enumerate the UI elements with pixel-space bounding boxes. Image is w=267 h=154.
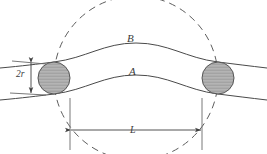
dimension-label-L: L bbox=[130, 125, 136, 135]
large-dashed-circle bbox=[54, 0, 218, 154]
left-roller-circle bbox=[38, 62, 70, 94]
curve-label-A: A bbox=[129, 66, 136, 77]
curve-label-B: B bbox=[127, 33, 134, 44]
right-roller-circle bbox=[202, 62, 234, 94]
leader-line-top bbox=[12, 61, 46, 64]
figure-canvas: B A L 2r bbox=[0, 0, 267, 154]
leader-line-bottom bbox=[10, 93, 46, 95]
dimension-label-2r: 2r bbox=[16, 70, 24, 80]
